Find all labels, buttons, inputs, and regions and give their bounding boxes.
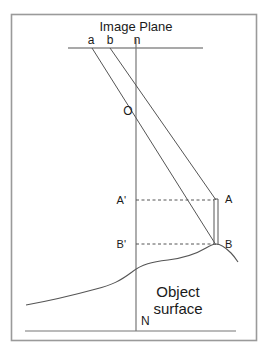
label-point-b: B bbox=[225, 238, 232, 250]
figure-border bbox=[12, 15, 257, 341]
label-a-prime: A' bbox=[117, 194, 126, 206]
image-plane-title: Image Plane bbox=[100, 19, 173, 34]
label-nadir-n: N bbox=[141, 314, 150, 328]
label-n-image-mark: n bbox=[134, 33, 141, 47]
label-perspective-center-o: O bbox=[123, 104, 132, 118]
label-point-a: A bbox=[225, 193, 233, 205]
label-b-prime: B' bbox=[117, 238, 126, 250]
figure-container: Image Plane a b n O A' B' A B N Object s… bbox=[0, 0, 274, 357]
photogrammetry-relief-displacement-diagram: Image Plane a b n O A' B' A B N Object s… bbox=[0, 0, 274, 357]
object-surface-label-line2: surface bbox=[153, 300, 202, 317]
label-b-image-mark: b bbox=[107, 33, 114, 47]
label-a-image-mark: a bbox=[88, 33, 95, 47]
object-surface-label-line1: Object bbox=[156, 283, 200, 300]
